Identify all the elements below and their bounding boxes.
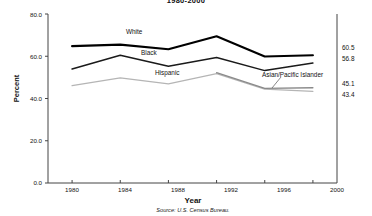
plot-area	[0, 0, 372, 216]
chart-container: 1980-2000 Percent 80.0 60.0 40.0 20.0 0.…	[0, 0, 372, 216]
series-line-white	[72, 36, 313, 56]
asian-pacific-islander-leader-line	[272, 77, 281, 88]
series-line-black	[72, 55, 313, 70]
series-lines	[72, 36, 313, 91]
series-line-asian-pacific-islander	[217, 73, 313, 89]
